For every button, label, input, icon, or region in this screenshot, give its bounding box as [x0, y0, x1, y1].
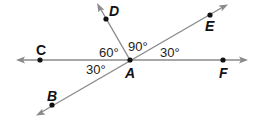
- point-c: [37, 57, 42, 62]
- label-f: F: [219, 65, 228, 81]
- point-f: [220, 57, 225, 62]
- arrow-lower-left-icon: [36, 109, 46, 116]
- label-b: B: [47, 88, 57, 104]
- point-e: [207, 12, 212, 17]
- arrow-up-icon: [97, 3, 105, 13]
- angle-dae-label: 90°: [128, 39, 148, 54]
- label-d: D: [109, 3, 119, 19]
- angle-cab-label: 30°: [86, 62, 106, 77]
- angle-eaf-label: 30°: [160, 45, 180, 60]
- label-c: C: [36, 42, 46, 58]
- point-a: [127, 57, 132, 62]
- point-d: [103, 16, 108, 21]
- label-a: A: [124, 65, 135, 81]
- label-e: E: [205, 18, 215, 34]
- angle-cad-label: 60°: [99, 45, 119, 60]
- angle-diagram: A C F D E B 60° 90° 30° 30°: [0, 0, 256, 125]
